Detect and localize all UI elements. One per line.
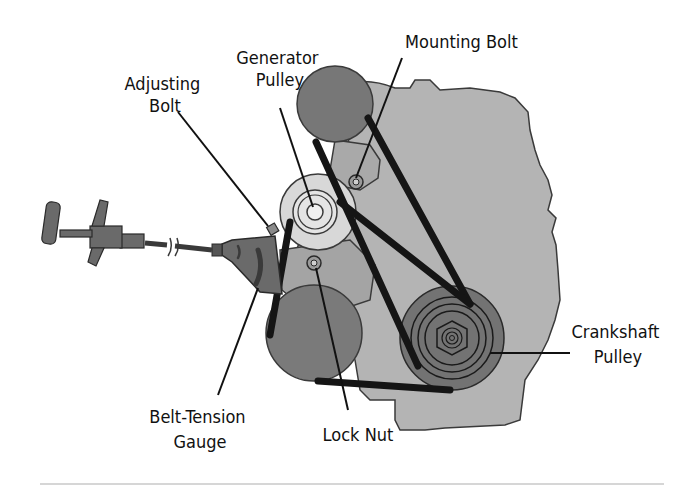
belt-tension-gauge bbox=[41, 200, 282, 294]
generator-pulley-hub bbox=[307, 204, 323, 220]
label-adjusting-bolt: Adjusting Bolt bbox=[125, 73, 206, 116]
belt-tension-diagram: Adjusting Bolt Generator Pulley Mounting… bbox=[0, 0, 698, 498]
lower-left-pulley bbox=[266, 285, 362, 381]
lock-nut bbox=[307, 256, 321, 270]
crankshaft-pulley bbox=[400, 286, 504, 390]
upper-pulley bbox=[297, 66, 373, 142]
label-crankshaft-pulley: Crankshaft Pulley bbox=[571, 321, 664, 367]
leader-adjusting-bolt bbox=[178, 112, 268, 226]
leader-belt-tension-gauge bbox=[218, 288, 258, 395]
label-mounting-bolt: Mounting Bolt bbox=[405, 31, 518, 52]
label-lock-nut: Lock Nut bbox=[323, 424, 394, 445]
label-belt-tension-gauge: Belt-Tension Gauge bbox=[149, 406, 250, 452]
